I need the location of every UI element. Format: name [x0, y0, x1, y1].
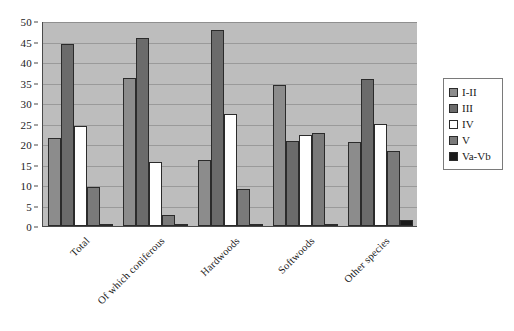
bar-total-va-vb	[100, 224, 113, 226]
bar-softwoods-iii	[286, 141, 299, 226]
bar-total-i-ii	[48, 138, 61, 226]
y-tick-mark	[34, 83, 38, 84]
legend-swatch-icon	[449, 120, 458, 129]
legend-item-i-ii: I-II	[449, 84, 497, 100]
bar-other-species-v	[387, 151, 400, 226]
legend-item-iv: IV	[449, 116, 497, 132]
bar-hardwoods-iii	[211, 30, 224, 226]
y-tick-mark	[34, 186, 38, 187]
bar-other-species-iii	[361, 79, 374, 226]
bar-softwoods-i-ii	[273, 85, 286, 226]
legend-label: IV	[462, 119, 474, 130]
y-tick-label: 25	[21, 119, 32, 130]
y-tick-label: 15	[21, 160, 32, 171]
y-tick-mark	[34, 124, 38, 125]
bar-other-species-iv	[374, 124, 387, 226]
y-tick-label: 40	[21, 58, 32, 69]
bar-hardwoods-va-vb	[250, 224, 263, 226]
bar-total-iii	[61, 44, 74, 226]
y-tick-mark	[34, 227, 38, 228]
bar-of-which-coniferous-v	[162, 215, 175, 226]
y-tick-label: 45	[21, 37, 32, 48]
bar-hardwoods-i-ii	[198, 160, 211, 226]
bar-other-species-i-ii	[348, 142, 361, 226]
y-tick-mark	[34, 22, 38, 23]
y-tick-label: 30	[21, 99, 32, 110]
legend-label: I-II	[462, 87, 477, 98]
y-tick-mark	[34, 104, 38, 105]
y-tick-mark	[34, 42, 38, 43]
bar-softwoods-va-vb	[325, 224, 338, 226]
bar-hardwoods-v	[237, 189, 250, 226]
y-axis: 05101520253035404550	[0, 22, 38, 227]
legend-item-v: V	[449, 132, 497, 148]
bar-softwoods-iv	[299, 135, 312, 226]
y-tick-mark	[34, 145, 38, 146]
y-tick-mark	[34, 206, 38, 207]
legend-label: Va-Vb	[462, 151, 491, 162]
bar-of-which-coniferous-iv	[149, 162, 162, 226]
bar-total-iv	[74, 126, 87, 226]
legend-label: V	[462, 135, 470, 146]
legend-item-iii: III	[449, 100, 497, 116]
x-tick-label: Softwoods	[275, 235, 316, 276]
bar-other-species-va-vb	[400, 220, 413, 226]
y-tick-label: 0	[26, 222, 32, 233]
plot-area	[42, 22, 417, 227]
x-axis-labels: TotalOf which coniferousHardwoodsSoftwoo…	[42, 227, 417, 331]
bar-total-v	[87, 187, 100, 226]
bar-of-which-coniferous-i-ii	[123, 78, 136, 226]
y-tick-label: 20	[21, 140, 32, 151]
x-tick-label: Other species	[341, 235, 391, 285]
x-tick-label: Of which coniferous	[95, 235, 166, 306]
bar-of-which-coniferous-iii	[136, 38, 149, 226]
bar-chart: 05101520253035404550 TotalOf which conif…	[0, 0, 514, 331]
bars-layer	[43, 22, 417, 226]
legend-swatch-icon	[449, 104, 458, 113]
bar-softwoods-v	[312, 133, 325, 226]
bar-hardwoods-iv	[224, 114, 237, 226]
legend-swatch-icon	[449, 152, 458, 161]
y-tick-label: 10	[21, 181, 32, 192]
y-tick-mark	[34, 63, 38, 64]
legend-swatch-icon	[449, 88, 458, 97]
y-tick-label: 5	[26, 201, 32, 212]
legend: I-IIIIIIVVVa-Vb	[443, 78, 503, 170]
y-tick-mark	[34, 165, 38, 166]
y-tick-label: 35	[21, 78, 32, 89]
bar-of-which-coniferous-va-vb	[175, 224, 188, 226]
x-tick-label: Total	[68, 235, 92, 259]
x-tick-label: Hardwoods	[198, 235, 241, 278]
legend-label: III	[462, 103, 473, 114]
legend-item-va-vb: Va-Vb	[449, 148, 497, 164]
legend-swatch-icon	[449, 136, 458, 145]
y-tick-label: 50	[21, 17, 32, 28]
